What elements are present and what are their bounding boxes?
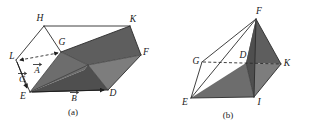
vector-a-line [20,53,58,60]
label-i-b: I [256,97,261,107]
caption-a: (a) [68,107,78,117]
vector-label-a: A [33,63,42,75]
label-f: F [142,47,149,57]
label-h: H [36,13,45,23]
edge-h-l [16,26,44,60]
label-f-b: F [255,6,262,16]
label-e-b: E [181,97,188,107]
vector-a-text: A [33,65,40,75]
panel-a-group: H K G F L E D A B C (a) [8,13,149,117]
label-d: D [109,88,117,98]
panel-a-shaded-faces [30,26,141,92]
panel-b-shaded-faces [191,19,281,98]
caption-b: (b) [223,110,234,120]
label-g: G [59,37,66,47]
panel-b-group: F G D K E I (b) [181,6,291,120]
label-k: K [129,14,137,24]
label-d-b: D [239,50,247,60]
diagram-svg: H K G F L E D A B C (a) [0,0,310,133]
label-l: L [8,51,14,61]
vector-b-text: B [71,93,77,103]
vector-c-text: C [19,74,26,84]
label-k-b: K [283,58,291,68]
vector-label-b: B [70,91,79,103]
label-g-b: G [193,56,200,66]
geometry-figure: H K G F L E D A B C (a) [0,0,310,133]
label-e: E [19,91,26,101]
